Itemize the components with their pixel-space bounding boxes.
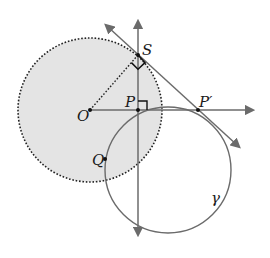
point-p [136,108,140,112]
label-s: S [142,41,152,59]
label-q: Q [92,151,104,169]
label-p: P [124,93,136,111]
point-s [136,53,140,57]
label-gamma: γ [211,189,220,207]
label-p-prime: P′ [198,93,213,111]
label-o: O [77,107,89,125]
geometry-diagram: O P P′ S Q γ [0,0,270,258]
